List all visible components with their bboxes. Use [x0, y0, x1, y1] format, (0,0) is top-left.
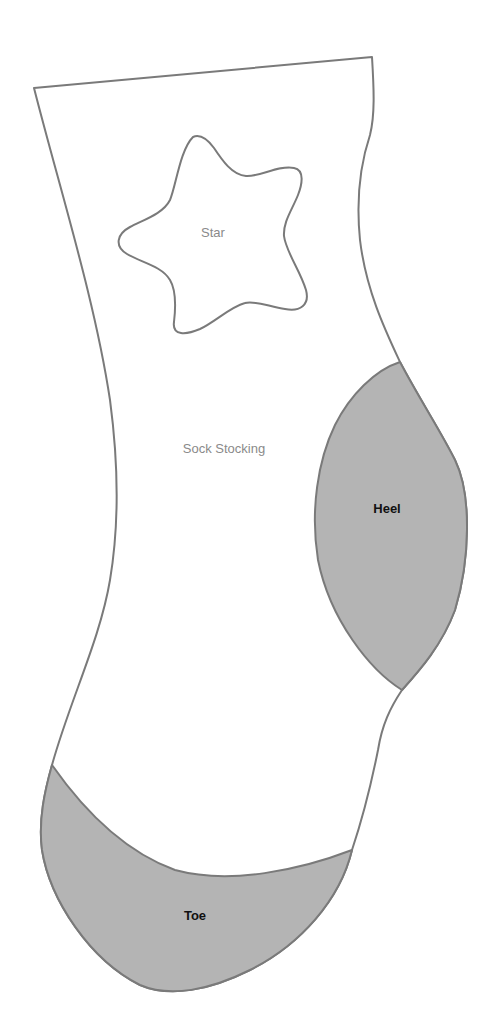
star-label: Star [201, 225, 226, 240]
heel-label: Heel [373, 501, 400, 516]
sock-pattern-diagram: Star Sock Stocking Heel Toe [0, 0, 503, 1036]
toe-label: Toe [184, 908, 206, 923]
sock-stocking-label: Sock Stocking [183, 441, 265, 456]
